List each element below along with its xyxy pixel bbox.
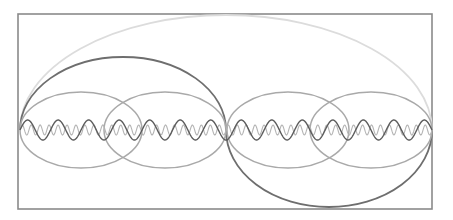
diagram-canvas — [0, 0, 453, 220]
second-harmonic-upper — [20, 57, 226, 130]
harmonic-arcs — [20, 15, 432, 207]
harmonic-diagram — [0, 0, 453, 220]
fundamental-arc — [20, 15, 432, 130]
diagram-frame — [18, 14, 432, 209]
ellipse-3 — [227, 92, 349, 168]
second-harmonic-lower — [226, 130, 432, 207]
